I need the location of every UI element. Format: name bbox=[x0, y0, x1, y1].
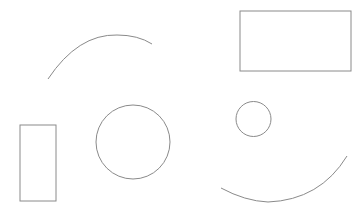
arc-top bbox=[48, 35, 152, 79]
rectangle-top-right bbox=[240, 11, 351, 71]
circle-small bbox=[236, 102, 271, 137]
rectangle-left bbox=[20, 125, 56, 201]
arc-bottom bbox=[221, 156, 347, 202]
circle-large bbox=[96, 105, 170, 179]
drawing-canvas bbox=[0, 0, 363, 216]
